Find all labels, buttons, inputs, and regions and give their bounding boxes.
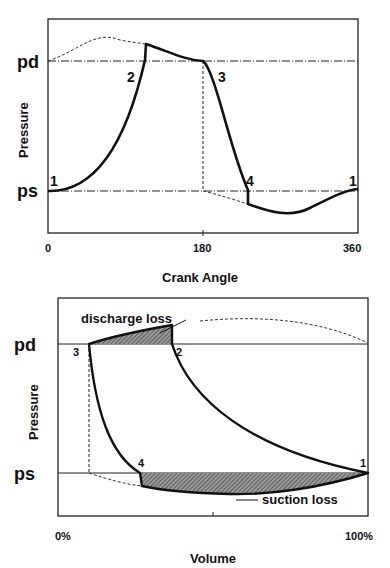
- y-axis-label: Pressure: [16, 102, 31, 158]
- x-tick-100: 100%: [345, 530, 373, 542]
- x-axis-label: Crank Angle: [162, 270, 238, 285]
- x-tick-0: 0%: [55, 530, 71, 542]
- pd-label: pd: [14, 335, 36, 355]
- volume-chart: discharge loss suction loss 3 2 4 1 pd p…: [14, 298, 373, 566]
- suction-loss-label: suction loss: [262, 492, 338, 507]
- ideal-discharge-curve: [200, 319, 368, 343]
- point-4-label: 4: [246, 173, 254, 189]
- point-3-label: 3: [73, 346, 79, 358]
- pd-label: pd: [17, 52, 39, 72]
- discharge-loss-label: discharge loss: [81, 311, 172, 326]
- x-axis-label: Volume: [190, 551, 236, 566]
- ideal-expansion-curve: [203, 191, 248, 204]
- ideal-compression-curve: [48, 37, 145, 61]
- diagrams: 1 2 3 4 1 pd ps 0 180 360 Crank Angle Pr…: [0, 0, 390, 568]
- ps-label: ps: [14, 464, 35, 484]
- point-1-label: 1: [50, 173, 58, 189]
- point-2-label: 2: [176, 346, 182, 358]
- point-3-label: 3: [218, 69, 226, 85]
- point-4-label: 4: [138, 457, 145, 469]
- ideal-suction-curve: [89, 473, 142, 486]
- ps-label: ps: [17, 181, 38, 201]
- crank-angle-chart: 1 2 3 4 1 pd ps 0 180 360 Crank Angle Pr…: [16, 19, 361, 285]
- point-1-label: 1: [360, 457, 366, 469]
- point-1-end-label: 1: [349, 173, 357, 189]
- x-tick-0: 0: [45, 242, 51, 254]
- y-axis-label: Pressure: [26, 384, 41, 440]
- point-2-label: 2: [127, 69, 135, 85]
- pv-cycle-curve: [89, 325, 368, 494]
- x-tick-180: 180: [193, 242, 211, 254]
- x-tick-360: 360: [343, 242, 361, 254]
